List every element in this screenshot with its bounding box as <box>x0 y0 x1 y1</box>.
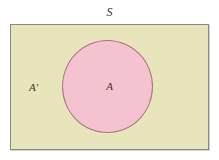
venn-diagram-figure: S A' A <box>0 0 219 160</box>
universal-set-label: S <box>0 6 219 18</box>
set-a-label: A <box>0 81 219 92</box>
